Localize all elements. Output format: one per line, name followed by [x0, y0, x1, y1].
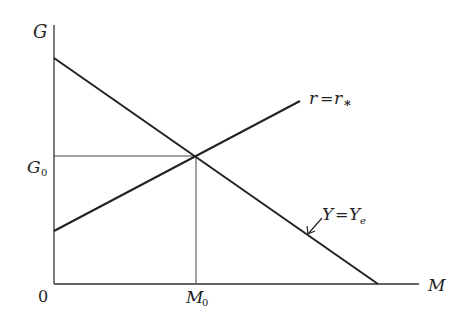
g0-label: G — [27, 157, 41, 177]
r-equals-rstar-line — [54, 101, 300, 231]
m0-subscript: 0 — [202, 297, 208, 308]
y-curve-label-eq: = — [335, 205, 348, 224]
origin-label: 0 — [38, 287, 48, 306]
g0-subscript: 0 — [41, 167, 47, 178]
r-curve-label-lhs: r — [309, 88, 318, 108]
diagram-canvas: G M 0 G 0 M 0 r = r * Y = Y e — [0, 0, 471, 319]
y-axis-label: G — [33, 21, 47, 42]
x-axis-label: M — [427, 275, 446, 295]
y-curve-label-sub: e — [360, 215, 366, 226]
r-curve-label-eq: = — [320, 89, 333, 108]
r-curve-label-sub: * — [344, 98, 351, 113]
r-curve-label-rhs: r — [334, 88, 343, 108]
y-curve-label-lhs: Y — [322, 204, 335, 224]
